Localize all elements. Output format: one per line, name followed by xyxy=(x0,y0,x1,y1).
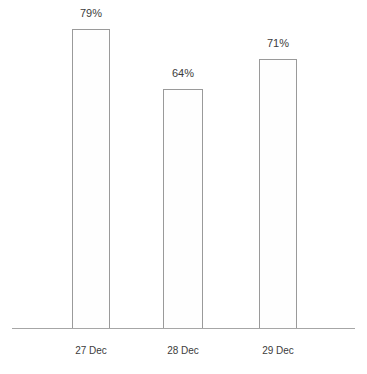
category-label-29-dec: 29 Dec xyxy=(240,344,316,357)
bar-value-label-29-dec: 71% xyxy=(246,37,310,50)
bar-value-label-27-dec: 79% xyxy=(59,7,123,20)
category-label-27-dec: 27 Dec xyxy=(53,344,129,357)
bar-chart: 79% 64% 71% 27 Dec 28 Dec 29 Dec xyxy=(0,0,367,374)
category-label-28-dec: 28 Dec xyxy=(145,344,221,357)
bar-27-dec[interactable] xyxy=(72,29,110,329)
bar-value-label-28-dec: 64% xyxy=(151,67,215,80)
bar-28-dec[interactable] xyxy=(163,89,203,329)
category-axis-line xyxy=(12,328,355,329)
bar-29-dec[interactable] xyxy=(259,59,297,329)
plot-area: 79% 64% 71% 27 Dec 28 Dec 29 Dec xyxy=(0,0,367,374)
